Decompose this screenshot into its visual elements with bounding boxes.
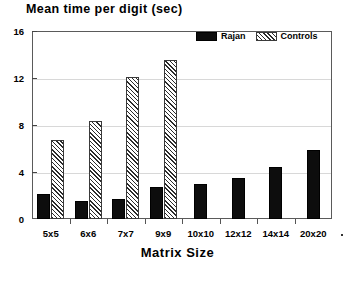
legend-swatch-controls <box>256 32 277 41</box>
x-tick-label-5x5: 5x5 <box>43 228 59 239</box>
corner-mark <box>341 234 343 236</box>
bar-rajan-10x10 <box>194 184 207 219</box>
x-tick-mark-1 <box>70 219 71 224</box>
y-tick-label-16: 16 <box>13 26 24 37</box>
x-tick-label-7x7: 7x7 <box>118 228 134 239</box>
x-tick-mark-7 <box>295 219 296 224</box>
legend-item-controls: Controls <box>256 31 318 41</box>
x-tick-mark-6 <box>257 219 258 224</box>
bar-controls-5x5 <box>51 140 64 219</box>
x-tick-label-14x14: 14x14 <box>263 228 289 239</box>
legend-item-rajan: Rajan <box>196 31 246 41</box>
x-tick-mark-3 <box>145 219 146 224</box>
x-tick-mark-5 <box>220 219 221 224</box>
y-tick-mark-16 <box>32 31 37 32</box>
bar-rajan-9x9 <box>150 187 163 219</box>
bar-rajan-5x5 <box>37 194 50 219</box>
y-tick-label-12: 12 <box>13 73 24 84</box>
bars-layer <box>32 31 332 219</box>
x-tick-label-10x10: 10x10 <box>188 228 214 239</box>
bar-rajan-7x7 <box>112 199 125 219</box>
x-axis-title: Matrix Size <box>0 245 355 260</box>
bar-rajan-14x14 <box>269 167 282 219</box>
x-tick-mark-4 <box>182 219 183 224</box>
legend-label-rajan: Rajan <box>221 31 246 41</box>
chart-legend: Rajan Controls <box>196 31 318 41</box>
legend-label-controls: Controls <box>281 31 318 41</box>
bar-controls-9x9 <box>164 60 177 219</box>
y-tick-mark-8 <box>32 125 37 126</box>
x-tick-label-20x20: 20x20 <box>300 228 326 239</box>
bar-controls-7x7 <box>126 77 139 219</box>
chart-title: Mean time per digit (sec) <box>26 2 183 16</box>
x-tick-label-12x12: 12x12 <box>225 228 251 239</box>
y-tick-label-8: 8 <box>19 120 24 131</box>
bar-controls-6x6 <box>89 121 102 219</box>
legend-swatch-rajan <box>196 32 217 41</box>
y-tick-mark-4 <box>32 172 37 173</box>
bar-chart: Mean time per digit (sec) 0481216 Rajan … <box>0 0 355 282</box>
y-tick-mark-12 <box>32 78 37 79</box>
y-axis: 0481216 <box>0 31 30 219</box>
x-tick-mark-2 <box>107 219 108 224</box>
bar-rajan-12x12 <box>232 178 245 219</box>
y-tick-label-4: 4 <box>19 167 24 178</box>
bar-rajan-6x6 <box>75 201 88 219</box>
x-tick-label-9x9: 9x9 <box>155 228 171 239</box>
y-tick-label-0: 0 <box>19 214 24 225</box>
x-tick-label-6x6: 6x6 <box>80 228 96 239</box>
bar-rajan-20x20 <box>307 150 320 219</box>
